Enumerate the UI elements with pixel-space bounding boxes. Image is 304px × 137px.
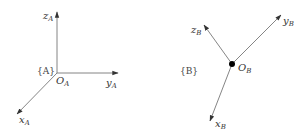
frames-diagram: zA yA xA OA {A} zB yB xB OB {B} xyxy=(0,0,304,137)
frame-a-origin-label: OA xyxy=(56,75,69,88)
frame-b-origin-dot xyxy=(229,61,235,67)
frame-b: zB yB xB OB {B} xyxy=(180,15,294,131)
frame-b-origin-label: OB xyxy=(238,62,251,75)
frame-a-y-label: yA xyxy=(105,77,117,90)
frame-b-z-label: zB xyxy=(190,24,201,37)
frame-b-y-axis xyxy=(232,15,281,64)
frame-a-x-label: xA xyxy=(19,114,30,127)
frame-b-name: {B} xyxy=(180,66,198,76)
frame-a-z-label: zA xyxy=(42,10,53,23)
frame-b-x-label: xB xyxy=(215,118,226,131)
frame-a-name: {A} xyxy=(37,66,55,76)
frame-b-z-axis xyxy=(204,25,232,64)
frame-a-x-axis xyxy=(17,73,57,114)
frame-b-y-label: yB xyxy=(282,15,294,28)
frame-b-x-axis xyxy=(210,64,232,121)
frame-a: zA yA xA OA {A} xyxy=(17,10,118,127)
